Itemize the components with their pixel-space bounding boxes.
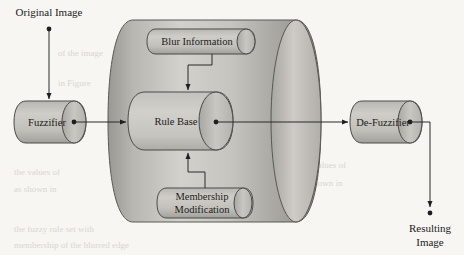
blur-information-label: Blur Information (161, 36, 233, 47)
resulting-image-label-line1: Resulting (409, 222, 452, 234)
membership-modification-label-line1: Membership (175, 191, 228, 202)
defuzzifier-label: De-Fuzzifier (356, 117, 410, 128)
membership-modification-label-line2: Modification (175, 204, 231, 215)
ghost-line: the values of (14, 167, 60, 177)
membership-modification-node[interactable]: Membership Modification (157, 188, 253, 218)
blur-information-node[interactable]: Blur Information (147, 29, 255, 54)
ghost-line: the fuzzy rule set with (14, 224, 94, 234)
defuzzifier-output-dot (408, 120, 413, 125)
resulting-image-label-line2: Image (416, 236, 444, 248)
original-image-label: Original Image (16, 6, 83, 18)
diagram-canvas: of the image in Figure the values of as … (0, 0, 464, 255)
original-image-endpoint-dot (47, 27, 52, 32)
ghost-line: membership of the blurred edge (14, 240, 129, 250)
rule-base-label: Rule Base (155, 116, 198, 127)
resulting-image-endpoint-dot (428, 211, 433, 216)
ghost-line: of the image (58, 48, 103, 58)
ghost-line: as shown in (14, 184, 57, 194)
fuzzifier-output-dot (72, 120, 77, 125)
fuzzifier-label: Fuzzifier (28, 117, 66, 128)
ghost-line: in Figure (58, 78, 91, 88)
rulebase-output-dot (214, 120, 219, 125)
